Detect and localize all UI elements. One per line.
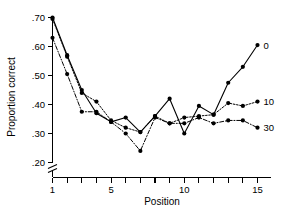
data-point xyxy=(241,65,245,69)
data-point xyxy=(94,100,98,104)
y-tick-label-40: .40 xyxy=(32,99,45,110)
x-tick-label-10: 10 xyxy=(179,184,190,195)
data-point xyxy=(255,43,259,47)
y-tick-label-50: .50 xyxy=(32,70,45,81)
x-axis-tick-labels: 151015 xyxy=(50,184,263,195)
data-point xyxy=(50,17,54,21)
data-point xyxy=(94,110,98,114)
series-label-30: 30 xyxy=(264,122,275,133)
data-point xyxy=(182,121,186,125)
data-point xyxy=(255,100,259,104)
x-tick-label-15: 15 xyxy=(252,184,263,195)
data-point xyxy=(80,91,84,95)
y-tick-label-60: .60 xyxy=(32,41,45,52)
data-point xyxy=(65,72,69,76)
y-tick-label-20: .20 xyxy=(32,157,45,168)
data-point xyxy=(211,121,215,125)
data-point xyxy=(241,104,245,108)
y-axis-tick-labels: .70 .60 .50 .40 .30 .20 xyxy=(32,12,45,168)
y-axis-title: Proportion correct xyxy=(6,57,17,137)
data-point xyxy=(168,97,172,101)
data-point xyxy=(197,104,201,108)
data-point xyxy=(182,115,186,119)
y-tick-label-70: .70 xyxy=(32,12,45,23)
data-point xyxy=(226,101,230,105)
data-point xyxy=(124,126,128,130)
data-point xyxy=(138,149,142,153)
data-point xyxy=(211,113,215,117)
data-point xyxy=(226,81,230,85)
series-label-0: 0 xyxy=(264,40,269,51)
x-tick-label-5: 5 xyxy=(108,184,113,195)
line-chart: .70 .60 .50 .40 .30 .20 Proportion corre… xyxy=(0,0,297,218)
data-point xyxy=(153,115,157,119)
x-axis-ticks xyxy=(53,178,258,183)
data-point xyxy=(226,118,230,122)
data-point xyxy=(241,118,245,122)
data-point xyxy=(124,115,128,119)
series-labels: 01030 xyxy=(264,40,275,134)
series-label-10: 10 xyxy=(264,96,275,107)
figure-container: .70 .60 .50 .40 .30 .20 Proportion corre… xyxy=(0,0,297,218)
data-point xyxy=(109,120,113,124)
data-point xyxy=(50,36,54,40)
data-point xyxy=(124,131,128,135)
x-tick-label-1: 1 xyxy=(50,184,55,195)
y-tick-label-30: .30 xyxy=(32,128,45,139)
data-point xyxy=(182,131,186,135)
x-axis-title: Position xyxy=(144,196,180,207)
data-point xyxy=(80,110,84,114)
data-point xyxy=(65,55,69,59)
data-point xyxy=(138,130,142,134)
data-point xyxy=(168,121,172,125)
data-point xyxy=(197,115,201,119)
series-group xyxy=(50,15,259,153)
data-point xyxy=(255,126,259,130)
